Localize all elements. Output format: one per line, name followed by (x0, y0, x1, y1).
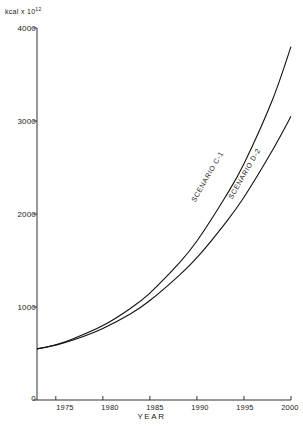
data-curves-layer (37, 47, 291, 349)
chart-figure: kcal x 1012 4000 3000 2000 1000 0 1975 1… (0, 0, 303, 426)
axes-layer (33, 28, 291, 400)
data-curve-scenario-d2 (37, 47, 291, 349)
data-curve-scenario-c1 (37, 116, 291, 349)
y-axis-ticks (33, 28, 37, 400)
x-axis-ticks (56, 396, 291, 400)
plot-area (0, 0, 303, 426)
